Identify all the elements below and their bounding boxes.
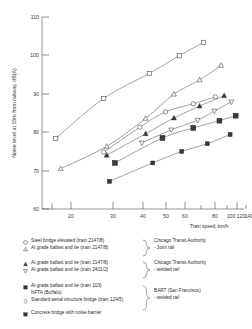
x-tick-40: 40 <box>140 213 146 219</box>
legend-label-3: At grade ballast and tie (train 2401/2) <box>31 267 108 273</box>
legend-group-2-line1: BART (San Francisco) <box>154 288 201 294</box>
series-4-point-1 <box>160 136 165 141</box>
x-axis-title: Train speed, km/h <box>190 224 228 229</box>
series-1 <box>58 63 223 171</box>
y-tick-80: 80 <box>33 129 39 135</box>
legend-item-0: Steel bridge elevated (train 2147/8) <box>22 238 104 245</box>
legend-group-0-line2: - Joint rail <box>154 245 174 251</box>
open-triangle-up-icon <box>22 245 31 252</box>
series-6-point-3 <box>205 142 209 146</box>
legend-label-5: NFTA (Buffalo) <box>31 290 62 296</box>
series-3-point-3 <box>212 109 217 114</box>
y-tick-100: 100 <box>30 52 39 58</box>
series-5-point-2 <box>163 110 167 114</box>
legend-label-4: At grade ballast and tie (train 103) <box>31 283 102 289</box>
series-6 <box>108 133 232 184</box>
filled-square-small-icon <box>22 310 31 317</box>
series-1-point-5 <box>219 63 224 67</box>
bracket-3 <box>143 286 150 310</box>
series-6-line <box>109 135 230 182</box>
legend-label-0: Steel bridge elevated (train 2147/8) <box>31 238 104 244</box>
series-1-point-1 <box>104 144 109 149</box>
series-5-point-4 <box>213 95 217 99</box>
series-6-point-0 <box>108 179 112 183</box>
series-2-line <box>107 96 225 156</box>
filled-triangle-up-icon <box>22 260 31 267</box>
legend-label-2: At grade ballast and tie (train 2147/8) <box>31 260 108 266</box>
series-1-point-4 <box>197 77 202 82</box>
series-4-point-4 <box>233 113 238 118</box>
legend-item-5: NFTA (Buffalo) <box>22 290 62 296</box>
legend-item-1: At grade ballast and tie (train 2147/8) <box>22 245 108 252</box>
legend-item-2: At grade ballast and tie (train 2147/8) <box>22 260 108 267</box>
x-tick-50: 50 <box>163 213 169 219</box>
y-tick-110: 110 <box>31 14 39 20</box>
series-3-point-1 <box>169 128 174 133</box>
series-3-point-4 <box>229 100 234 105</box>
railway-noise-figure: 110 100 90 80 70 60 20 30 40 50 60 8 <box>0 0 252 329</box>
x-axis-ticks <box>52 202 246 209</box>
legend-label-6: Standard aerial structure bridge (train … <box>31 297 123 303</box>
series-2-point-4 <box>222 93 227 98</box>
x-tick-30: 30 <box>110 213 116 219</box>
open-circle-thin-icon <box>22 297 31 304</box>
series-5 <box>102 95 218 155</box>
x-tick-100: 100 <box>227 213 236 219</box>
y-tick-90: 90 <box>33 91 39 97</box>
legend-item-6: Standard aerial structure bridge (train … <box>22 297 123 304</box>
series-2-point-1 <box>143 131 148 136</box>
series-0-point-3 <box>177 54 181 58</box>
y-axis-tick-labels: 110 100 90 80 70 60 <box>30 14 39 212</box>
series-0-point-2 <box>147 71 151 75</box>
series-6-point-4 <box>228 133 232 137</box>
x-tick-60: 60 <box>182 213 188 219</box>
series-6-point-1 <box>151 161 155 165</box>
series-2-point-2 <box>172 115 177 120</box>
series-1-point-0 <box>58 166 63 171</box>
x-tick-20: 20 <box>68 213 74 219</box>
series-0-point-0 <box>54 136 58 140</box>
series-2 <box>104 93 226 157</box>
legend-group-1-line1: Chicago Transit Authority <box>154 260 206 266</box>
bracket-1 <box>143 240 150 256</box>
y-axis-ticks <box>42 17 49 209</box>
open-circle-icon <box>22 238 31 245</box>
legend-item-3: At grade ballast and tie (train 2401/2) <box>22 267 108 274</box>
axes <box>42 17 244 209</box>
series-1-line <box>61 65 221 168</box>
legend-item-7: Concrete bridge with noise barrier <box>22 310 101 317</box>
series-0-point-4 <box>201 40 205 44</box>
x-axis-tick-labels: 20 30 40 50 60 80 100 120 140 <box>68 213 252 219</box>
series-3-point-0 <box>139 141 144 146</box>
series-5-point-3 <box>191 102 195 106</box>
filled-square-icon <box>22 283 31 290</box>
series-5-point-0 <box>102 150 106 154</box>
legend-group-0-line1: Chicago Transit Authority <box>154 238 206 244</box>
series-1-point-2 <box>143 116 148 121</box>
y-tick-70: 70 <box>33 168 39 174</box>
chart-legend: Steel bridge elevated (train 2147/8) At … <box>0 236 252 329</box>
series-5-point-1 <box>138 125 142 129</box>
legend-item-4: At grade ballast and tie (train 103) <box>22 283 102 290</box>
y-axis-title: Noise level at 15m from railway, dB(A) <box>11 68 17 158</box>
series-4-point-3 <box>217 118 222 123</box>
series-6-point-2 <box>180 150 184 154</box>
data-series-layer <box>54 40 238 183</box>
bracket-2 <box>143 262 150 278</box>
legend-label-1: At grade ballast and tie (train 2147/8) <box>31 245 108 251</box>
legend-group-1-line2: - welded rail <box>154 267 179 273</box>
chart-plot-area: 110 100 90 80 70 60 20 30 40 50 60 8 <box>0 0 252 236</box>
x-tick-80: 80 <box>212 213 218 219</box>
y-tick-60: 60 <box>33 206 39 212</box>
open-triangle-down-icon <box>22 267 31 274</box>
series-3-point-2 <box>195 118 200 123</box>
legend-group-2-line2: - welded rail <box>154 295 179 301</box>
legend-label-7: Concrete bridge with noise barrier <box>31 310 101 316</box>
series-1-point-3 <box>172 92 177 97</box>
x-tick-140: 140 <box>245 213 252 219</box>
series-0-point-1 <box>102 96 106 100</box>
series-4-point-2 <box>191 126 196 131</box>
series-2-point-3 <box>197 103 202 108</box>
series-4-point-0 <box>112 161 117 166</box>
